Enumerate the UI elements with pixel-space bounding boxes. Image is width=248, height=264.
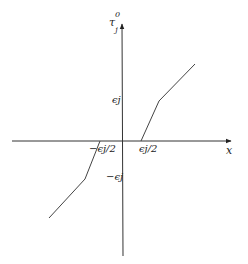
x-tick-neg-label: −ϵj/2 <box>89 144 116 154</box>
y-axis-label: τ0j <box>109 15 123 31</box>
curve-upper-branch <box>141 64 195 141</box>
y-axis <box>122 24 123 256</box>
y-tick-neg-label: −ϵj <box>106 172 123 182</box>
y-axis-label-sup: 0 <box>115 10 120 19</box>
y-axis-label-sub: j <box>115 25 117 34</box>
diagram-canvas <box>0 0 248 264</box>
y-tick-pos-label: ϵj <box>112 95 121 105</box>
x-axis-label: x <box>226 145 232 156</box>
x-tick-pos-label: ϵj/2 <box>139 144 157 154</box>
